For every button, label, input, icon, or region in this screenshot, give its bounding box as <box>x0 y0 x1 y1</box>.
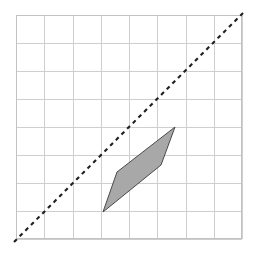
figure-root <box>0 0 257 254</box>
geometry-figure-svg <box>0 0 257 254</box>
shaded-quadrilateral <box>103 127 175 212</box>
